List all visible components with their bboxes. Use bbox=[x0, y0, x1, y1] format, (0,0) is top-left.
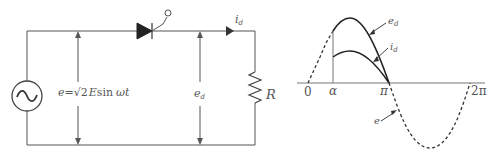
supply-voltage-curve-rising bbox=[308, 31, 333, 83]
load-voltage-curve bbox=[333, 18, 389, 83]
supply-voltage-curve-negative bbox=[389, 83, 470, 148]
e-curve-label: e bbox=[374, 115, 380, 126]
current-direction-arrow-icon bbox=[226, 26, 234, 36]
current-label: id bbox=[235, 13, 244, 27]
tick-two-pi: 2π bbox=[471, 84, 487, 98]
output-voltage-label: ed bbox=[194, 87, 206, 101]
resistor-label: R bbox=[265, 87, 276, 102]
thyristor-icon bbox=[137, 10, 171, 39]
id-curve-label: id bbox=[390, 41, 398, 54]
waveform-plot: ed id e 0 α π 2π bbox=[297, 15, 487, 148]
ac-source-icon bbox=[12, 81, 42, 111]
tick-alpha: α bbox=[329, 84, 337, 98]
resistor-icon bbox=[249, 72, 261, 103]
ed-curve-label: ed bbox=[388, 15, 399, 28]
e-pointer-arrowhead-icon bbox=[391, 110, 397, 115]
tick-zero: 0 bbox=[304, 85, 312, 99]
gate-terminal-icon bbox=[165, 10, 171, 16]
source-voltage-label: e=√2Esinωt bbox=[58, 86, 130, 99]
load-current-curve bbox=[333, 51, 389, 83]
tick-pi: π bbox=[379, 84, 389, 98]
ed-pointer-arrowhead-icon bbox=[369, 29, 375, 35]
thyristor-half-wave-rectifier-diagram: id R e=√2Esinωt ed ed id bbox=[0, 0, 495, 162]
